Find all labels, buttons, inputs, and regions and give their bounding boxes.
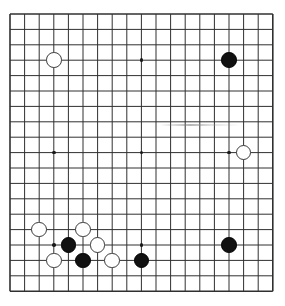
white-stone-f5[interactable] bbox=[75, 222, 91, 238]
black-stone-f3[interactable] bbox=[75, 253, 91, 269]
black-stone-e4[interactable] bbox=[61, 237, 77, 253]
hoshi-star-point bbox=[52, 243, 56, 247]
white-stone-g4[interactable] bbox=[90, 237, 106, 253]
white-stone-d3[interactable] bbox=[46, 253, 62, 269]
white-stone-d16[interactable] bbox=[46, 52, 62, 68]
go-board-container bbox=[0, 0, 285, 306]
black-stone-q4[interactable] bbox=[221, 237, 237, 253]
hoshi-star-point bbox=[140, 243, 144, 247]
black-stone-q16[interactable] bbox=[221, 52, 237, 68]
hoshi-star-point bbox=[140, 58, 144, 62]
white-stone-h3[interactable] bbox=[104, 253, 120, 269]
hoshi-star-point bbox=[52, 151, 56, 155]
